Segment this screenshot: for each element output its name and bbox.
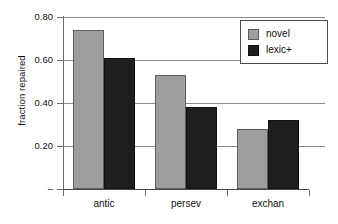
x-axis-line (63, 189, 309, 190)
y-axis-tick-label: 0.60 (11, 55, 53, 65)
y-axis-title: fraction repaired (16, 26, 27, 156)
bar-persev-lexicplus (186, 107, 217, 189)
x-axis-label-persev: persev (145, 198, 227, 209)
bar-exchan-lexicplus (268, 120, 299, 189)
bar-antic-lexicplus (104, 58, 135, 189)
bar-antic-novel (73, 30, 104, 189)
y-axis-tick-label: 0.80 (11, 12, 53, 22)
y-axis-tick-label: 0.20 (11, 141, 53, 151)
legend-item-novel: novel (248, 26, 321, 42)
x-axis-label-antic: antic (63, 198, 145, 209)
x-axis-tick (227, 190, 228, 196)
x-axis-tick (63, 190, 64, 196)
legend-item-lexic: lexic+ (248, 42, 321, 58)
y-axis-tick-label: – (11, 184, 53, 194)
x-axis-tick (145, 190, 146, 196)
x-axis-tick (309, 190, 310, 196)
bar-chart: fraction repaired 0.800.600.400.20– anti… (0, 0, 338, 224)
bar-exchan-novel (237, 129, 268, 189)
legend: novel lexic+ (240, 20, 328, 64)
legend-label-lexic: lexic+ (266, 45, 292, 55)
y-axis-tick-label: 0.40 (11, 98, 53, 108)
bar-persev-novel (155, 75, 186, 189)
legend-label-novel: novel (266, 29, 290, 39)
legend-swatch-lexic-icon (248, 45, 259, 56)
legend-swatch-novel-icon (248, 29, 259, 40)
x-axis-label-exchan: exchan (227, 198, 309, 209)
